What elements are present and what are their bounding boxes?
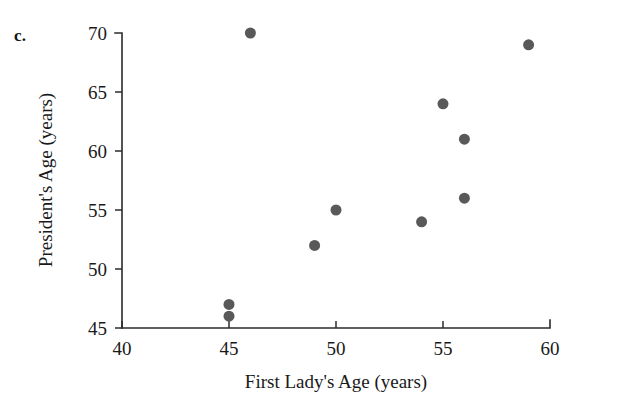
x-tick-label: 45 xyxy=(220,338,239,359)
y-tick-label: 50 xyxy=(88,259,107,280)
y-tick-label: 70 xyxy=(88,23,107,44)
x-tick-label: 40 xyxy=(113,338,132,359)
scatter-plot-figure: c. 455055606570 4045505560 First Lady's … xyxy=(0,0,619,404)
x-axis-ticks: 4045505560 xyxy=(113,321,560,359)
data-point xyxy=(459,134,470,145)
data-point xyxy=(224,311,235,322)
x-axis-title: First Lady's Age (years) xyxy=(245,371,427,393)
x-tick-label: 60 xyxy=(541,338,560,359)
y-axis-title: President's Age (years) xyxy=(35,93,57,267)
data-point xyxy=(245,28,256,39)
data-point xyxy=(416,216,427,227)
data-points-group xyxy=(224,28,535,322)
axes-group xyxy=(115,33,550,328)
data-point xyxy=(309,240,320,251)
data-point xyxy=(224,299,235,310)
x-tick-label: 50 xyxy=(327,338,346,359)
y-tick-label: 65 xyxy=(88,82,107,103)
y-tick-label: 55 xyxy=(88,200,107,221)
scatter-plot-canvas: 455055606570 4045505560 First Lady's Age… xyxy=(0,0,619,404)
data-point xyxy=(523,39,534,50)
data-point xyxy=(438,98,449,109)
x-tick-label: 55 xyxy=(434,338,453,359)
y-tick-label: 45 xyxy=(88,318,107,339)
y-axis-ticks: 455055606570 xyxy=(88,23,122,339)
data-point xyxy=(459,193,470,204)
y-axis-line xyxy=(115,33,122,328)
y-tick-label: 60 xyxy=(88,141,107,162)
data-point xyxy=(331,205,342,216)
